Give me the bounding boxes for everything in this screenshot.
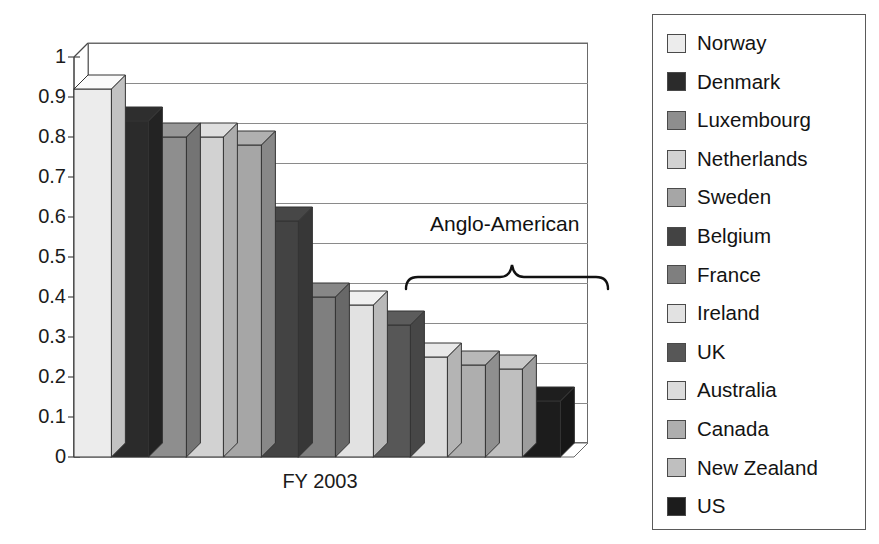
legend-item: Australia <box>667 371 865 410</box>
legend-label: France <box>697 265 761 286</box>
legend-item: Canada <box>667 410 865 449</box>
legend-swatch <box>667 265 686 284</box>
legend-label: Belgium <box>697 226 771 247</box>
legend-label: Luxembourg <box>697 110 811 131</box>
legend-item: Netherlands <box>667 140 865 179</box>
legend-swatch <box>667 420 686 439</box>
legend-item: Norway <box>667 24 865 63</box>
legend-label: Denmark <box>697 72 780 93</box>
legend-label: Netherlands <box>697 149 808 170</box>
legend-label: US <box>697 496 725 517</box>
legend-swatch <box>667 188 686 207</box>
legend-swatch <box>667 343 686 362</box>
legend-label: UK <box>697 342 725 363</box>
legend-label: Sweden <box>697 187 771 208</box>
bar <box>74 75 111 457</box>
legend-item: Belgium <box>667 217 865 256</box>
legend-item: Ireland <box>667 294 865 333</box>
legend-item: Luxembourg <box>667 101 865 140</box>
legend-item: US <box>667 487 865 526</box>
legend-swatch <box>667 304 686 323</box>
legend-swatch <box>667 381 686 400</box>
legend-label: Ireland <box>697 303 760 324</box>
chart-plot-area: 10.90.80.70.60.50.40.30.20.10 Anglo-Amer… <box>0 0 620 544</box>
chart-figure: 10.90.80.70.60.50.40.30.20.10 Anglo-Amer… <box>0 0 879 544</box>
anglo-american-annotation-label: Anglo-American <box>430 212 579 236</box>
legend-item: France <box>667 256 865 295</box>
legend-swatch <box>667 150 686 169</box>
legend-swatch <box>667 34 686 53</box>
legend-label: Canada <box>697 419 769 440</box>
legend-label: Australia <box>697 380 777 401</box>
legend-swatch <box>667 72 686 91</box>
legend-swatch <box>667 227 686 246</box>
chart-legend: NorwayDenmarkLuxembourgNetherlandsSweden… <box>652 14 866 530</box>
legend-item: Sweden <box>667 178 865 217</box>
legend-swatch <box>667 458 686 477</box>
x-axis-label: FY 2003 <box>220 470 420 493</box>
legend-label: New Zealand <box>697 458 818 479</box>
legend-label: Norway <box>697 33 767 54</box>
legend-item: Denmark <box>667 63 865 102</box>
anglo-american-brace <box>400 255 630 295</box>
legend-item: UK <box>667 333 865 372</box>
legend-swatch <box>667 111 686 130</box>
legend-item: New Zealand <box>667 449 865 488</box>
legend-swatch <box>667 497 686 516</box>
